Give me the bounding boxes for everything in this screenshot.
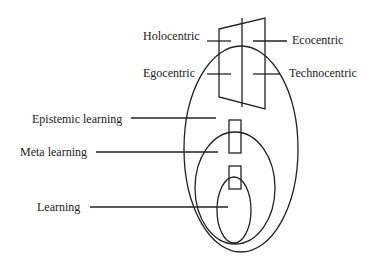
egocentric-label: Egocentric	[143, 66, 195, 80]
technocentric-label: Technocentric	[289, 66, 357, 80]
learning-label: Learning	[37, 200, 80, 214]
ecocentric-label: Ecocentric	[292, 33, 343, 47]
meta-learning-label: Meta learning	[20, 145, 87, 159]
upper-connector-rect	[229, 120, 241, 153]
epistemic-learning-label: Epistemic learning	[32, 112, 122, 126]
learning-ellipse	[217, 177, 251, 243]
meta-learning-ellipse	[195, 132, 275, 244]
holocentric-label: Holocentric	[143, 29, 200, 43]
